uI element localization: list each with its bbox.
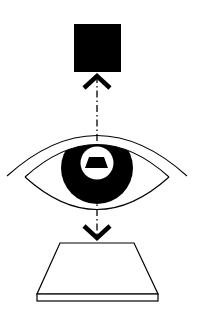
bottom-slab-edge [37,294,158,301]
top-square [74,24,121,72]
pupil-trapezoid-icon [85,157,108,168]
bottom-slab-top-face [37,243,158,294]
eye-projection-diagram [0,0,197,314]
